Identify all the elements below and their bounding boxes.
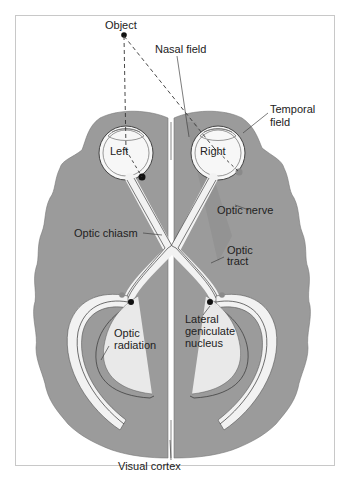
label-right-eye: Right (200, 145, 226, 157)
visual-pathway-diagram: Object Nasal field Temporal field Left R… (0, 0, 344, 481)
label-left-eye: Left (110, 145, 128, 157)
label-lgn-1: Lateral (185, 313, 219, 325)
label-object: Object (105, 19, 137, 31)
label-lgn-2: geniculate (185, 325, 235, 337)
label-visual-cortex: Visual cortex (118, 460, 181, 472)
label-optic-radiation-1: Optic (114, 327, 140, 339)
label-optic-chiasm: Optic chiasm (74, 227, 138, 239)
label-temporal-field-2: field (270, 116, 290, 128)
label-optic-radiation-2: radiation (114, 339, 156, 351)
label-lgn-3: nucleus (185, 337, 223, 349)
label-optic-nerve: Optic nerve (217, 204, 273, 216)
brain (34, 111, 311, 458)
label-nasal-field: Nasal field (155, 43, 206, 55)
label-optic-tract-2: tract (227, 255, 248, 267)
label-temporal-field-1: Temporal (270, 103, 315, 115)
